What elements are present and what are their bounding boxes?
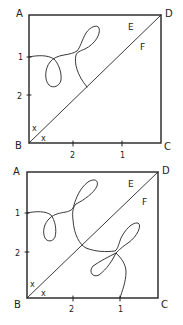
angle-mark-2-bottom: x	[41, 289, 46, 298]
label-e-top: E	[128, 22, 134, 32]
labels-bottom: A B C D E F 1 2 2 1 x x	[13, 165, 170, 314]
left-tick-label-1-top: 1	[18, 53, 23, 62]
corner-d-top: D	[165, 8, 173, 19]
bottom-tick-label-1-bottom: 1	[118, 305, 123, 314]
corner-a-bottom: A	[13, 166, 20, 177]
diagonal-bd-top	[29, 15, 161, 143]
corner-b-bottom: B	[14, 299, 21, 310]
angle-mark-1-bottom: x	[30, 280, 35, 289]
left-tick-label-2-bottom: 2	[15, 249, 20, 258]
angle-mark-1-top: x	[32, 124, 37, 133]
bottom-tick-label-1-top: 1	[120, 151, 125, 160]
figure-bottom	[25, 172, 158, 301]
diagram-canvas: A B C D E F 1 2 2 1 x x A B C D E F 1 2 …	[0, 0, 183, 325]
bottom-tick-label-2-bottom: 2	[69, 305, 74, 314]
left-tick-label-1-bottom: 1	[15, 209, 20, 218]
angle-mark-2-top: x	[41, 134, 46, 143]
labels-top: A B C D E F 1 2 2 1 x x	[15, 8, 173, 160]
corner-c-top: C	[164, 141, 171, 152]
corner-d-bottom: D	[162, 165, 170, 176]
loop-curve-bottom	[27, 180, 140, 298]
left-tick-label-2-top: 2	[17, 92, 22, 101]
corner-b-top: B	[15, 140, 22, 151]
corner-a-top: A	[16, 8, 23, 19]
label-f-top: F	[140, 42, 145, 52]
figure-top	[27, 15, 161, 146]
diagonal-bd-bottom	[27, 172, 158, 298]
corner-c-bottom: C	[161, 299, 168, 310]
label-f-bottom: F	[142, 197, 147, 207]
bottom-tick-label-2-top: 2	[70, 151, 75, 160]
label-e-bottom: E	[128, 179, 134, 189]
loop-curve-top	[29, 26, 99, 87]
